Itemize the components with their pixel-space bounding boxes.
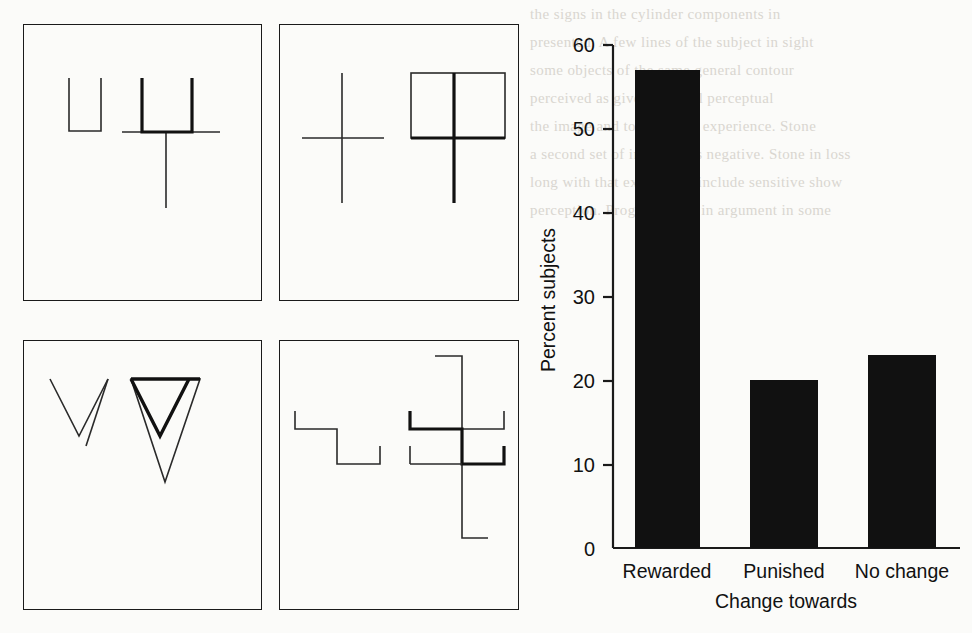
stimulus-panel-grid (0, 0, 520, 633)
y-tick-label-40: 40 (573, 202, 595, 224)
v-shape-panel (23, 340, 262, 610)
bar-chart: 60 50 40 30 20 10 0 Rewarded Punished No… (520, 0, 972, 633)
staircase-shape-panel (279, 340, 519, 610)
bar-rewarded[interactable] (635, 70, 700, 548)
figure-root: the signs in the cylinder components in … (0, 0, 972, 633)
x-category-label-no-change: No change (855, 560, 949, 582)
y-tick-label-20: 20 (573, 370, 595, 392)
u-shape-panel-drawing (24, 25, 260, 299)
y-tick-label-60: 60 (573, 34, 595, 56)
x-category-label-punished: Punished (743, 560, 824, 582)
x-category-label-rewarded: Rewarded (623, 560, 712, 582)
v-original-diagonal (86, 379, 108, 446)
u-shape-panel (23, 24, 262, 301)
y-tick-label-10: 10 (573, 454, 595, 476)
x-axis-title: Change towards (715, 590, 857, 612)
staircase-original-shape (295, 411, 380, 464)
cross-shape-panel-drawing (280, 25, 517, 299)
bracket-upper-arm (462, 411, 504, 429)
staircase-shape-panel-drawing (280, 341, 517, 608)
staircase-bold-shape (410, 411, 504, 464)
y-tick-label-30: 30 (573, 286, 595, 308)
y-tick-label-0: 0 (584, 538, 595, 560)
u-bold-shape (142, 78, 192, 132)
v-shape-panel-drawing (24, 341, 260, 608)
rectangle-shape (411, 73, 505, 138)
bar-chart-svg: 60 50 40 30 20 10 0 Rewarded Punished No… (520, 0, 972, 633)
bar-punished[interactable] (750, 380, 818, 548)
u-original-shape (69, 78, 101, 131)
bar-no-change[interactable] (868, 355, 936, 548)
y-axis-title: Percent subjects (537, 228, 559, 372)
cross-shape-panel (279, 24, 519, 301)
y-tick-label-50: 50 (573, 118, 595, 140)
triangle-shape (131, 379, 200, 482)
